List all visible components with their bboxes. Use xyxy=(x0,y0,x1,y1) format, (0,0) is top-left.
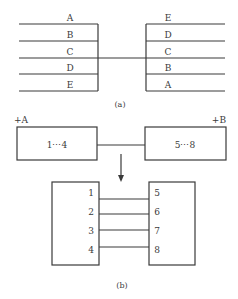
wiring-diagram: A B C D E E D C B A (a) +A +B 1⋯4 5⋯ xyxy=(0,0,238,299)
caption-a: (a) xyxy=(114,100,125,109)
terminal-5: 5 xyxy=(154,188,160,198)
device-a-tag: +A xyxy=(14,115,29,125)
device-b-tag: +B xyxy=(212,115,227,125)
figure-a: A B C D E E D C B A (a) xyxy=(19,13,225,109)
terminal-4: 4 xyxy=(88,245,94,255)
right-label-1: E xyxy=(165,13,172,23)
terminal-7: 7 xyxy=(154,226,160,236)
terminal-1: 1 xyxy=(88,188,94,198)
terminal-8: 8 xyxy=(154,245,160,255)
left-label-4: D xyxy=(66,63,73,73)
terminal-3: 3 xyxy=(88,226,94,236)
right-label-4: B xyxy=(165,63,172,73)
right-label-3: C xyxy=(165,47,172,57)
device-a-range: 1⋯4 xyxy=(47,140,68,150)
terminal-6: 6 xyxy=(154,207,160,217)
left-cable-bundle: A B C D E xyxy=(19,13,98,91)
left-label-3: C xyxy=(67,47,74,57)
left-label-2: B xyxy=(67,30,74,40)
right-cable-bundle: E D C B A xyxy=(146,13,225,91)
right-label-5: A xyxy=(164,80,172,90)
left-label-1: A xyxy=(66,13,74,23)
left-label-5: E xyxy=(67,80,74,90)
terminal-2: 2 xyxy=(88,207,94,217)
caption-b: (b) xyxy=(116,281,127,290)
right-label-2: D xyxy=(164,30,171,40)
device-b-range: 5⋯8 xyxy=(175,140,196,150)
figure-b: +A +B 1⋯4 5⋯8 1 2 3 4 5 6 7 8 (b) xyxy=(14,115,226,290)
down-arrow-icon xyxy=(118,154,124,182)
